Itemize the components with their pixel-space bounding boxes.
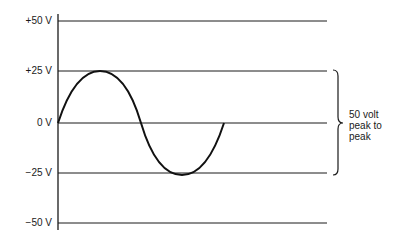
annotation-line1: 50 volt: [349, 109, 382, 120]
label-minus-25: −25 V: [2, 167, 52, 179]
label-zero: 0 V: [2, 117, 52, 129]
peak-to-peak-annotation: 50 volt peak to peak: [349, 109, 382, 142]
label-plus-25: +25 V: [2, 65, 52, 77]
label-minus-50: −50 V: [2, 217, 52, 229]
annotation-line2: peak to: [349, 120, 382, 131]
waveform-diagram: [0, 0, 400, 241]
brace: [333, 70, 343, 175]
annotation-line3: peak: [349, 131, 382, 142]
label-plus-50: +50 V: [2, 15, 52, 27]
